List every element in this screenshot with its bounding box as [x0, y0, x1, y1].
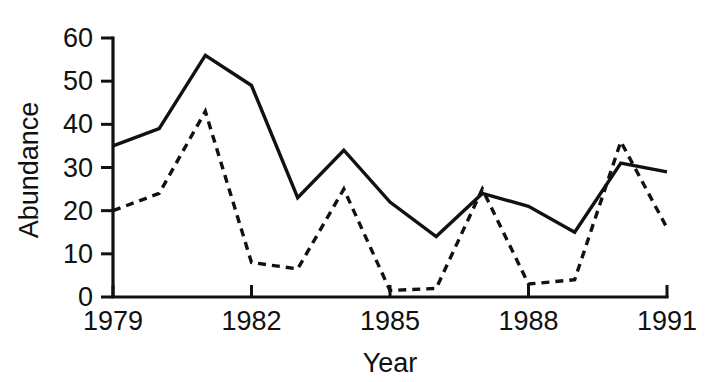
y-tick-label-40: 40	[63, 109, 93, 139]
y-tick-label-60: 60	[63, 23, 93, 53]
y-axis-ticks	[101, 38, 113, 297]
axis-frame	[113, 38, 667, 297]
series-solid-series	[113, 55, 667, 236]
y-tick-label-30: 30	[63, 153, 93, 183]
chart-figure: 0102030405060 19791982198519881991 Abund…	[0, 0, 716, 382]
x-tick-label-1991: 1991	[637, 306, 697, 336]
x-tick-label-1979: 1979	[83, 306, 143, 336]
line-chart: 0102030405060 19791982198519881991 Abund…	[0, 0, 716, 382]
x-tick-label-1985: 1985	[360, 306, 420, 336]
x-axis-tick-labels: 19791982198519881991	[83, 306, 697, 336]
y-tick-label-50: 50	[63, 66, 93, 96]
y-axis-title: Abundance	[14, 102, 44, 239]
x-axis-title: Year	[363, 348, 418, 378]
y-tick-label-20: 20	[63, 196, 93, 226]
x-tick-label-1982: 1982	[221, 306, 281, 336]
y-tick-label-10: 10	[63, 239, 93, 269]
x-tick-label-1988: 1988	[498, 306, 558, 336]
y-axis-tick-labels: 0102030405060	[63, 23, 93, 312]
